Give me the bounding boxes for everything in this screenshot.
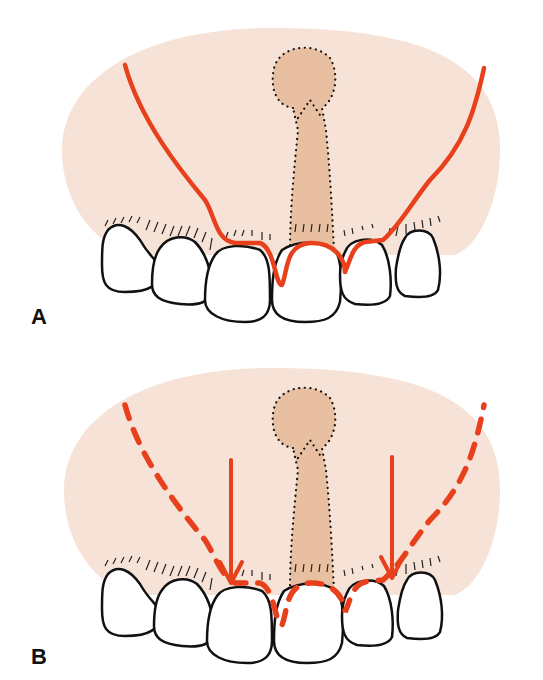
panel-b: B: [0, 340, 543, 680]
tooth-left-central: [205, 246, 270, 322]
panel-label-a: A: [31, 306, 47, 328]
tooth-right-lateral: [340, 240, 391, 305]
panel-label-b: B: [31, 646, 47, 668]
tooth-left-central: [207, 587, 272, 663]
tooth-right-lateral: [342, 581, 393, 646]
tooth-right-canine: [398, 573, 442, 640]
panel-b-illustration: [0, 340, 543, 680]
panel-a-illustration: [0, 0, 543, 340]
tooth-right-canine: [396, 231, 440, 298]
panel-a: A: [0, 0, 543, 340]
